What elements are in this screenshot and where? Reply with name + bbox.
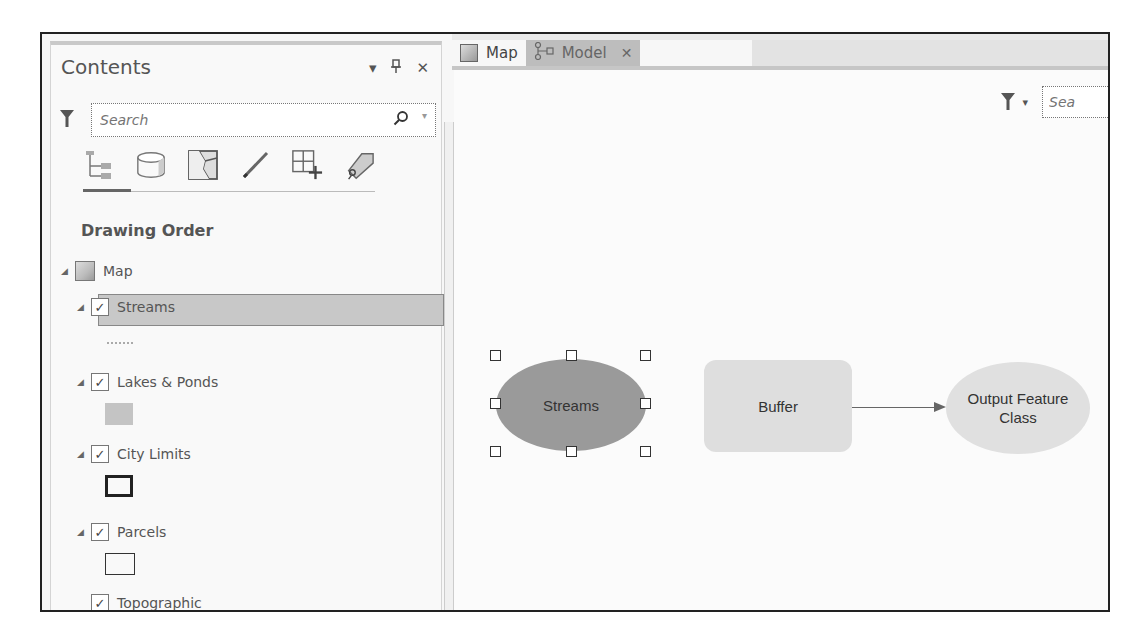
pane-controls: ▾ ✕ (369, 59, 429, 78)
polygon-outline-thick-symbol[interactable] (105, 475, 133, 497)
document-tabs: Map Model ✕ (452, 40, 640, 66)
filter-icon[interactable] (59, 109, 75, 133)
selection-handle-s[interactable] (566, 446, 577, 457)
selection-handle-se[interactable] (640, 446, 651, 457)
model-icon (534, 42, 556, 64)
connector-line[interactable] (852, 407, 936, 408)
tab-model[interactable]: Model ✕ (526, 40, 641, 66)
polygon-fill-symbol[interactable] (105, 403, 133, 425)
contents-pane: Contents ▾ ✕ ▾ (50, 41, 442, 612)
arrow-head-icon (934, 402, 946, 412)
expand-toggle-icon[interactable]: ◢ (77, 377, 91, 387)
model-node-buffer[interactable]: Buffer (704, 360, 852, 452)
selection-handle-ne[interactable] (640, 350, 651, 361)
polygon-outline-thin-symbol[interactable] (105, 553, 135, 575)
pin-icon[interactable] (390, 59, 402, 78)
expand-toggle-icon[interactable]: ◢ (61, 266, 75, 276)
tree-item-label: Map (103, 263, 133, 279)
line-symbol[interactable] (107, 342, 133, 345)
layer-label: Lakes & Ponds (117, 374, 218, 390)
canvas-search-input[interactable] (1043, 87, 1110, 117)
drawing-order-heading: Drawing Order (81, 221, 213, 240)
selection-handle-sw[interactable] (490, 446, 501, 457)
selection-handle-e[interactable] (640, 398, 651, 409)
contents-search[interactable]: ▾ (91, 103, 436, 137)
layer-visibility-checkbox[interactable]: ✓ (91, 298, 109, 316)
list-by-snapping-icon[interactable] (291, 149, 323, 181)
contents-view-toolbar (83, 149, 375, 181)
node-label: Buffer (758, 398, 798, 415)
selection-handle-nw[interactable] (490, 350, 501, 361)
map-icon (75, 261, 95, 281)
layer-parcels[interactable]: ◢ ✓ Parcels (77, 523, 166, 541)
layer-visibility-checkbox[interactable]: ✓ (91, 445, 109, 463)
search-icon[interactable] (393, 110, 409, 130)
selection-handle-n[interactable] (566, 350, 577, 361)
layer-label: Parcels (117, 524, 166, 540)
app-window: Contents ▾ ✕ ▾ (40, 32, 1110, 612)
pane-splitter[interactable] (444, 122, 454, 612)
pane-options-dropdown-icon[interactable]: ▾ (369, 59, 377, 78)
chevron-down-icon: ▾ (1022, 96, 1028, 109)
model-builder-canvas[interactable]: ▾ Streams Buffer Output Feature Class (454, 70, 1108, 610)
layer-topographic[interactable]: ✓ Topographic (91, 594, 202, 612)
model-node-streams[interactable]: Streams (496, 359, 646, 451)
tab-map[interactable]: Map (452, 40, 526, 66)
contents-title: Contents (61, 55, 151, 79)
node-label-line1: Output Feature (968, 390, 1069, 407)
layer-visibility-checkbox[interactable]: ✓ (91, 373, 109, 391)
layer-visibility-checkbox[interactable]: ✓ (91, 523, 109, 541)
layer-streams[interactable]: ◢ ✓ Streams (77, 298, 175, 316)
view-tabs-underline (83, 191, 375, 192)
expand-toggle-icon[interactable]: ◢ (77, 302, 91, 312)
list-by-drawing-order-icon[interactable] (83, 149, 115, 181)
model-node-output-feature-class[interactable]: Output Feature Class (946, 362, 1090, 454)
canvas-search[interactable] (1042, 86, 1110, 118)
node-label: Output Feature Class (968, 389, 1069, 427)
layer-label: Streams (117, 299, 175, 315)
map-icon (460, 44, 478, 62)
layer-label: Topographic (117, 595, 202, 611)
selection-handle-w[interactable] (490, 398, 501, 409)
layer-visibility-checkbox[interactable]: ✓ (91, 594, 109, 612)
node-label: Streams (543, 397, 599, 414)
tab-label: Map (486, 44, 518, 62)
contents-search-input[interactable] (92, 104, 382, 136)
expand-toggle-icon[interactable]: ◢ (77, 527, 91, 537)
tree-item-map[interactable]: ◢ Map (61, 261, 133, 281)
tab-label: Model (562, 44, 607, 62)
canvas-filter-button[interactable]: ▾ (1000, 92, 1028, 112)
filter-icon (1000, 92, 1016, 112)
close-icon[interactable]: ✕ (416, 59, 429, 78)
layer-lakes-ponds[interactable]: ◢ ✓ Lakes & Ponds (77, 373, 218, 391)
node-label-line2: Class (999, 409, 1037, 426)
close-tab-icon[interactable]: ✕ (621, 45, 633, 61)
layer-label: City Limits (117, 446, 191, 462)
list-by-editing-icon[interactable] (239, 149, 271, 181)
search-options-chevron-icon[interactable]: ▾ (422, 110, 427, 121)
expand-toggle-icon[interactable]: ◢ (77, 449, 91, 459)
list-by-selection-icon[interactable] (187, 149, 219, 181)
list-by-data-source-icon[interactable] (135, 149, 167, 181)
list-by-labeling-icon[interactable] (343, 149, 375, 181)
layer-city-limits[interactable]: ◢ ✓ City Limits (77, 445, 191, 463)
tab-bar-background (752, 40, 1108, 66)
